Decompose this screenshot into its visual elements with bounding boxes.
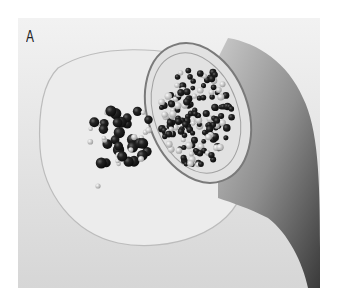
bead [183, 88, 190, 95]
bead [114, 142, 123, 151]
bead [174, 83, 179, 88]
bead [181, 137, 186, 142]
bead [197, 87, 204, 94]
bead [194, 148, 199, 153]
bead [187, 160, 194, 167]
bead [190, 86, 195, 91]
bead [162, 134, 167, 139]
bead [198, 161, 204, 167]
bead [181, 155, 187, 161]
bead [220, 81, 226, 87]
bead [217, 144, 224, 151]
bead [214, 117, 220, 123]
bead [201, 139, 206, 144]
bead [166, 141, 173, 148]
bead [168, 101, 175, 108]
bead [192, 94, 197, 99]
bead [183, 98, 190, 105]
bead [182, 121, 188, 127]
bead [208, 152, 214, 158]
bead [191, 121, 196, 126]
bead [96, 157, 107, 168]
bead [178, 128, 184, 134]
photograph [18, 18, 320, 288]
bead [217, 94, 224, 101]
bead [211, 84, 217, 90]
bead [190, 78, 195, 83]
bead [174, 102, 181, 109]
bead [178, 70, 183, 75]
bead [131, 134, 137, 140]
bead [176, 147, 182, 153]
bead [138, 156, 144, 162]
bead [192, 111, 197, 116]
bead [169, 110, 176, 117]
bead [209, 89, 215, 95]
bead [99, 125, 108, 134]
bead [229, 106, 235, 112]
bead [117, 151, 127, 161]
bead [175, 118, 182, 125]
bead [146, 127, 152, 133]
bead [102, 136, 106, 140]
bead [211, 104, 218, 111]
bead [212, 72, 218, 78]
bead [159, 105, 164, 110]
bead [128, 147, 133, 152]
bead [95, 183, 100, 188]
bead [185, 68, 191, 74]
bead [228, 114, 235, 121]
bead [206, 126, 213, 133]
bead [87, 139, 93, 145]
bead [203, 110, 210, 117]
bead [88, 126, 92, 130]
bead [144, 116, 152, 124]
bead [209, 94, 214, 99]
bead [161, 111, 167, 117]
bead [158, 99, 165, 106]
bead [165, 93, 172, 100]
panel-label: A [26, 28, 34, 45]
bead [181, 145, 186, 150]
bead [205, 134, 212, 141]
bead [223, 135, 228, 140]
bead [223, 124, 231, 132]
bead [138, 138, 149, 149]
bead [141, 110, 146, 115]
bead [113, 118, 123, 128]
bead [216, 87, 222, 93]
bead [189, 151, 194, 156]
bead [89, 117, 99, 127]
bead [190, 130, 195, 135]
bead [105, 106, 116, 117]
bead [177, 89, 184, 96]
bead [133, 107, 142, 116]
bead [197, 70, 204, 77]
bead [167, 119, 174, 126]
bead [200, 95, 206, 101]
